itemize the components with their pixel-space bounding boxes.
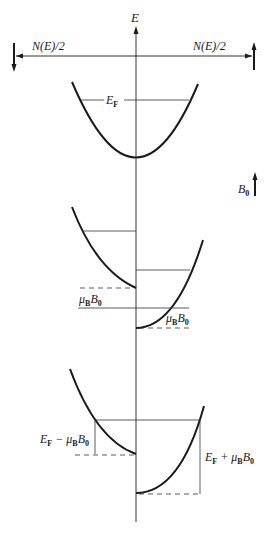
density-axis-right-arrow-icon — [245, 54, 252, 59]
panel3-right-label: EF + μBB0 — [204, 450, 254, 466]
panel2-left-shift-label: μBB0 — [78, 292, 102, 308]
panel3-left-label: EF − μBB0 — [39, 432, 89, 448]
field-arrow-icon — [253, 172, 258, 180]
panel2-left-parabola — [72, 207, 136, 288]
panel3-right-parabola — [136, 406, 204, 493]
left-density-label: N(E)/2 — [31, 39, 65, 53]
density-of-states-diagram: E N(E)/2 N(E)/2 EF B0 μBB0 μBB0 EF − μBB… — [0, 0, 273, 539]
right-density-label: N(E)/2 — [192, 39, 226, 53]
energy-axis-arrow-icon — [134, 26, 139, 34]
density-axis-left-arrow-icon — [16, 54, 23, 59]
panel1-parabola — [72, 82, 198, 158]
panel2-right-shift-label: μBB0 — [165, 311, 189, 327]
energy-axis-label: E — [130, 10, 139, 25]
spin-up-arrow-icon — [252, 42, 257, 50]
spin-down-arrow-icon — [12, 64, 17, 72]
field-label: B0 — [238, 182, 249, 198]
